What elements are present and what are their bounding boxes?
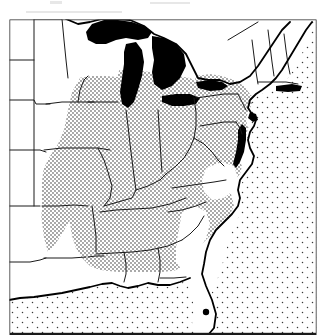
lake-okeechobee <box>203 309 209 315</box>
map-canvas <box>0 0 329 335</box>
distribution-range-map <box>0 0 329 335</box>
